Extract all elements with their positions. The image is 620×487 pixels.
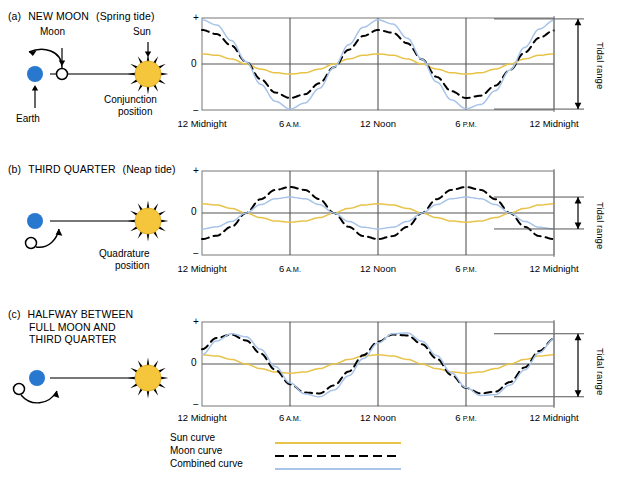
x-tick-unit: Midnight	[188, 118, 227, 129]
panel-a-heading: (a) NEW MOON (Spring tide)	[8, 10, 155, 22]
earth-label-a: Earth	[16, 113, 40, 125]
earth-icon	[29, 370, 45, 386]
x-tick-unit: P.M.	[461, 265, 477, 274]
legend-swatches	[273, 437, 403, 487]
panel-halfway: (c) HALFWAY BETWEEN FULL MOON AND THIRD …	[0, 300, 620, 430]
x-tick-main: 12	[529, 118, 540, 129]
y-axis-zero-c: 0	[191, 357, 197, 368]
panel-c-title-line1: HALFWAY BETWEEN	[28, 308, 134, 321]
x-tick-a-0: 12 Midnight	[177, 118, 226, 129]
sun-icon	[128, 54, 169, 95]
earth-icon	[27, 213, 43, 229]
x-tick-unit: Midnight	[540, 118, 579, 129]
x-tick-main: 12	[529, 263, 540, 274]
moon-icon	[14, 384, 25, 395]
x-tick-unit: A.M.	[284, 120, 301, 129]
y-axis-plus-b: +	[193, 165, 199, 176]
y-axis-minus-c: −	[193, 399, 199, 410]
x-tick-unit: Noon	[371, 412, 396, 423]
panel-third-quarter: (b) THIRD QUARTER (Neap tide) Quadrature…	[0, 155, 620, 310]
x-tick-b-4: 12 Midnight	[529, 263, 578, 274]
x-tick-b-3: 6 P.M.	[455, 263, 476, 274]
y-axis-zero-b: 0	[191, 206, 197, 217]
tide-graph-new-moon	[200, 14, 590, 124]
quadrature-label-b-line2: position	[115, 260, 149, 272]
panel-a-subtitle: (Spring tide)	[96, 10, 155, 22]
conjunction-label-a-line2: position	[118, 106, 152, 118]
x-tick-unit: Midnight	[188, 263, 227, 274]
x-tick-main: 12	[360, 412, 371, 423]
x-tick-unit: P.M.	[461, 414, 477, 423]
sun-pointer-head	[145, 52, 151, 57]
earth-icon	[27, 66, 43, 82]
x-tick-c-2: 12 Noon	[360, 412, 396, 423]
orbit-arc	[21, 391, 57, 403]
x-tick-unit: Noon	[371, 118, 396, 129]
x-tick-a-1: 6 A.M.	[279, 118, 301, 129]
x-tick-unit: A.M.	[284, 265, 301, 274]
x-tick-main: 12	[360, 263, 371, 274]
x-tick-c-1: 6 A.M.	[279, 412, 301, 423]
x-tick-b-2: 12 Noon	[360, 263, 396, 274]
x-tick-unit: Midnight	[540, 412, 579, 423]
orbit-arc	[36, 229, 59, 247]
x-tick-a-2: 12 Noon	[360, 118, 396, 129]
y-axis-minus-a: −	[193, 105, 199, 116]
tidal-range-label-c: Tidal range	[594, 348, 605, 395]
panel-b-heading: (b) THIRD QUARTER (Neap tide)	[8, 163, 176, 175]
orbit-diagram-halfway	[5, 355, 195, 435]
panel-c-title-line2: FULL MOON AND	[29, 321, 116, 333]
panel-c-heading: (c) HALFWAY BETWEEN FULL MOON AND THIRD …	[8, 308, 133, 346]
x-tick-unit: Noon	[371, 263, 396, 274]
panel-new-moon: (a) NEW MOON (Spring tide) Moon Sun Eart…	[0, 0, 620, 155]
panel-b-subtitle: (Neap tide)	[123, 163, 176, 175]
x-tick-c-3: 6 P.M.	[455, 412, 476, 423]
x-tick-b-1: 6 A.M.	[279, 263, 301, 274]
panel-c-letter: (c)	[8, 308, 21, 321]
panel-c-title-line3: THIRD QUARTER	[29, 333, 116, 345]
x-tick-unit: Midnight	[540, 263, 579, 274]
x-tick-main: 12	[529, 412, 540, 423]
x-tick-c-0: 12 Midnight	[177, 412, 226, 423]
tidal-range-label-a: Tidal range	[594, 42, 605, 89]
legend-label-1: Moon curve	[170, 445, 222, 456]
earth-pointer-head	[32, 85, 38, 90]
sun-icon	[128, 358, 169, 399]
x-tick-main: 12	[177, 412, 188, 423]
x-tick-c-4: 12 Midnight	[529, 412, 578, 423]
tide-graph-halfway	[200, 318, 590, 418]
panel-a-letter: (a)	[8, 10, 21, 22]
x-tick-a-3: 6 P.M.	[455, 118, 476, 129]
moon-icon	[57, 69, 68, 80]
legend: Sun curveMoon curveCombined curve	[0, 430, 620, 487]
y-axis-minus-b: −	[193, 248, 199, 259]
y-axis-zero-a: 0	[191, 58, 197, 69]
x-tick-main: 12	[177, 263, 188, 274]
x-tick-main: 12	[177, 118, 188, 129]
x-tick-a-4: 12 Midnight	[529, 118, 578, 129]
moon-icon	[26, 238, 37, 249]
tidal-range-label-b: Tidal range	[594, 202, 605, 249]
x-tick-unit: P.M.	[461, 120, 477, 129]
moon-label-a: Moon	[40, 26, 65, 38]
tide-graph-third-quarter	[200, 167, 590, 267]
sun-label-a: Sun	[133, 26, 151, 38]
x-tick-b-0: 12 Midnight	[177, 263, 226, 274]
x-tick-unit: Midnight	[188, 412, 227, 423]
sun-icon	[128, 201, 169, 242]
panel-b-title: THIRD QUARTER	[28, 163, 115, 175]
conjunction-label-a-line1: Conjunction	[104, 94, 157, 106]
orbit-diagram-third-quarter	[5, 185, 195, 285]
x-tick-unit: A.M.	[284, 414, 301, 423]
quadrature-label-b-line1: Quadrature	[99, 248, 150, 260]
legend-label-0: Sun curve	[170, 432, 215, 443]
panel-b-letter: (b)	[8, 163, 21, 175]
legend-label-2: Combined curve	[170, 458, 243, 469]
y-axis-plus-a: +	[193, 12, 199, 23]
moon-pointer-head	[59, 61, 65, 66]
x-tick-main: 12	[360, 118, 371, 129]
y-axis-plus-c: +	[193, 316, 199, 327]
panel-a-title: NEW MOON	[28, 10, 89, 22]
